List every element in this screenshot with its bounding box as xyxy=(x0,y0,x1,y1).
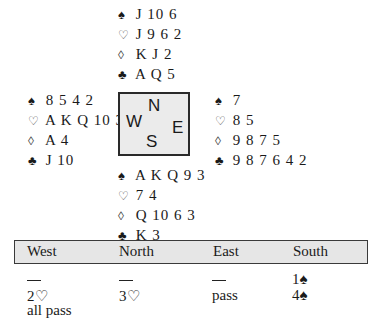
west-hand: ♠ 8 5 4 2 ♡ A K Q 10 3 ◊ A 4 ♣ J 10 xyxy=(28,90,124,170)
south-hand: ♠ A K Q 9 3 ♡ 7 4 ◊ Q 10 6 3 ♣ K 3 xyxy=(118,165,206,245)
diamond-icon: ◊ xyxy=(215,131,228,151)
south-diamonds: ◊ Q 10 6 3 xyxy=(118,205,206,225)
spade-icon: ♠ xyxy=(118,5,131,25)
diamond-icon: ◊ xyxy=(118,45,131,65)
dash-icon xyxy=(27,280,41,281)
compass-south: S xyxy=(146,132,157,152)
west-diamonds: ◊ A 4 xyxy=(28,130,124,150)
club-icon: ♣ xyxy=(118,65,131,85)
diamond-icon: ◊ xyxy=(28,131,41,151)
club-icon: ♣ xyxy=(215,151,228,171)
east-spades: ♠ 7 xyxy=(215,90,308,110)
south-spades: ♠ A K Q 9 3 xyxy=(118,165,206,185)
north-spades: ♠ J 10 6 xyxy=(118,4,182,24)
heart-icon: ♡ xyxy=(28,111,41,131)
heart-icon: ♡ xyxy=(118,186,131,206)
spade-icon: ♠ xyxy=(215,91,228,111)
compass-east: E xyxy=(172,118,183,138)
north-diamonds: ◊ K J 2 xyxy=(118,44,182,64)
dash-icon xyxy=(212,280,226,281)
diamond-icon: ◊ xyxy=(118,206,131,226)
bid-north xyxy=(119,271,133,288)
compass-box: N W E S xyxy=(118,92,190,156)
bid-east xyxy=(212,271,226,288)
east-hand: ♠ 7 ♡ 8 5 ◊ 9 8 7 5 ♣ 9 8 7 6 4 2 xyxy=(215,90,308,170)
header-east: East xyxy=(213,243,239,260)
header-west: West xyxy=(27,243,57,260)
east-hearts: ♡ 8 5 xyxy=(215,110,308,130)
bid-west: all pass xyxy=(27,302,72,318)
heart-icon: ♡ xyxy=(118,25,131,45)
bidding-row: all pass xyxy=(0,302,384,318)
dash-icon xyxy=(119,280,133,281)
bidding-row: 1♠ xyxy=(0,271,384,288)
north-hearts: ♡ J 9 6 2 xyxy=(118,24,182,44)
bidding-header: West North East South xyxy=(14,240,368,264)
compass-west: W xyxy=(126,112,142,132)
heart-icon: ♡ xyxy=(215,111,228,131)
east-diamonds: ◊ 9 8 7 5 xyxy=(215,130,308,150)
north-hand: ♠ J 10 6 ♡ J 9 6 2 ◊ K J 2 ♣ A Q 5 xyxy=(118,4,182,84)
west-spades: ♠ 8 5 4 2 xyxy=(28,90,124,110)
header-north: North xyxy=(119,243,154,260)
west-hearts: ♡ A K Q 10 3 xyxy=(28,110,124,130)
compass-north: N xyxy=(148,96,160,116)
spade-icon: ♠ xyxy=(118,166,131,186)
south-hearts: ♡ 7 4 xyxy=(118,185,206,205)
bid-south: 1♠ xyxy=(292,271,307,288)
header-south: South xyxy=(293,243,328,260)
spade-icon: ♠ xyxy=(28,91,41,111)
north-clubs: ♣ A Q 5 xyxy=(118,64,182,84)
bid-west xyxy=(27,271,41,288)
west-clubs: ♣ J 10 xyxy=(28,150,124,170)
club-icon: ♣ xyxy=(28,151,41,171)
east-clubs: ♣ 9 8 7 6 4 2 xyxy=(215,150,308,170)
